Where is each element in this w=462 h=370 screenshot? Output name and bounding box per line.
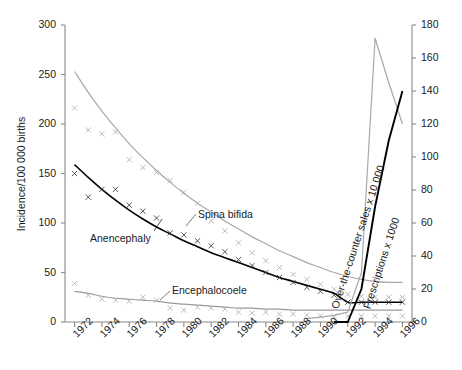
y-axis-left-tick-label: 100 <box>20 216 56 228</box>
series-line <box>307 38 403 319</box>
data-point-marker <box>250 250 255 255</box>
data-point-marker <box>345 292 350 297</box>
data-point-marker <box>99 187 104 192</box>
data-point-marker <box>222 228 227 233</box>
data-point-marker <box>318 282 323 287</box>
y-axis-right-tick-label: 60 <box>421 216 457 228</box>
y-axis-right-tick-label: 140 <box>421 84 457 96</box>
data-point-marker <box>140 295 145 300</box>
series-over-the-counter-sales-x-10-000 <box>307 38 403 319</box>
annotation-leader-line <box>186 214 196 226</box>
chart-container: Incidence/100 000 births 050100150200250… <box>0 0 462 370</box>
chart-plot-area <box>0 0 462 370</box>
series-label-spina-bifida: Spina bifida <box>198 208 253 220</box>
data-point-marker <box>277 265 282 270</box>
y-axis-left-tick-label: 200 <box>20 117 56 129</box>
data-point-marker <box>291 311 296 316</box>
y-axis-right-tick-label: 80 <box>421 183 457 195</box>
data-point-marker <box>222 249 227 254</box>
y-axis-left-tick-label: 50 <box>20 266 56 278</box>
data-point-marker <box>236 257 241 262</box>
data-point-marker <box>181 232 186 237</box>
data-point-marker <box>291 272 296 277</box>
data-point-marker <box>140 165 145 170</box>
data-point-marker <box>318 313 323 318</box>
series-label-encephalocoele: Encephalocoele <box>172 284 247 296</box>
y-axis-right-tick-label: 160 <box>421 51 457 63</box>
data-point-marker <box>72 171 77 176</box>
data-point-marker <box>113 187 118 192</box>
data-point-marker <box>72 281 77 286</box>
series-label-anencephaly: Anencephaly <box>90 232 151 244</box>
data-point-marker <box>140 209 145 214</box>
y-axis-left-tick-label: 250 <box>20 68 56 80</box>
data-point-marker <box>263 258 268 263</box>
y-axis-left-tick-label: 0 <box>20 315 56 327</box>
y-axis-right-tick-label: 40 <box>421 249 457 261</box>
data-point-marker <box>263 310 268 315</box>
y-axis-right-tick-label: 100 <box>421 150 457 162</box>
data-point-marker <box>236 240 241 245</box>
data-point-marker <box>168 306 173 311</box>
data-point-marker <box>99 297 104 302</box>
data-point-marker <box>236 310 241 315</box>
y-axis-left-tick-label: 300 <box>20 18 56 30</box>
data-point-marker <box>154 298 159 303</box>
data-point-marker <box>373 313 378 318</box>
data-point-marker <box>386 295 391 300</box>
data-point-marker <box>209 243 214 248</box>
data-point-marker <box>113 129 118 134</box>
data-point-marker <box>72 106 77 111</box>
data-point-marker <box>86 195 91 200</box>
annotation-leader-line <box>160 291 170 300</box>
data-point-marker <box>400 295 405 300</box>
y-axis-right-tick-label: 0 <box>421 315 457 327</box>
chart-series <box>72 38 405 322</box>
data-point-marker <box>400 313 405 318</box>
data-point-marker <box>181 308 186 313</box>
data-point-marker <box>195 238 200 243</box>
data-point-marker <box>304 277 309 282</box>
data-point-marker <box>127 203 132 208</box>
data-point-marker <box>86 127 91 132</box>
data-point-marker <box>154 215 159 220</box>
y-axis-right-tick-label: 120 <box>421 117 457 129</box>
series-spina-bifida <box>72 72 405 300</box>
data-point-marker <box>195 201 200 206</box>
y-axis-right-tick-label: 180 <box>421 18 457 30</box>
data-point-marker <box>99 131 104 136</box>
y-axis-right-tick-label: 20 <box>421 282 457 294</box>
y-axis-left-tick-label: 150 <box>20 167 56 179</box>
data-point-marker <box>127 157 132 162</box>
